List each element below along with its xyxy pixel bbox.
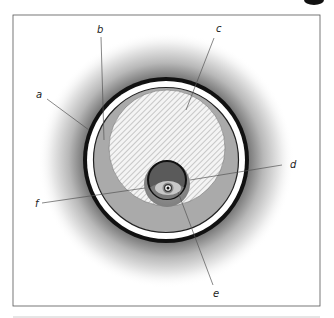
cross-section-diagram: a b c d e f (0, 0, 334, 318)
label-e: e (213, 288, 219, 299)
label-c: c (216, 23, 222, 34)
label-b: b (97, 24, 103, 35)
corner-blob (304, 0, 324, 5)
label-d: d (290, 159, 297, 170)
label-a: a (36, 89, 42, 100)
